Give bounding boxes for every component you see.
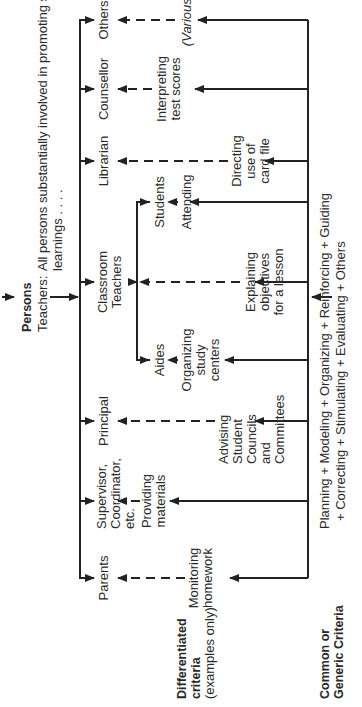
criterion-explaining-objectives: Explaining objectives for a lesson xyxy=(244,248,286,315)
criterion-organizing-study-centers: Organizing study centers xyxy=(180,329,222,392)
criterion-various: (Various) xyxy=(180,0,194,46)
person-classroom-teachers: Classroom Teachers xyxy=(96,251,124,313)
criterion-attending: Attending xyxy=(180,175,194,230)
persons-title: Persons xyxy=(20,283,34,332)
person-students: Students xyxy=(153,176,167,227)
criterion-monitoring-homework: Monitoring homework xyxy=(187,548,215,609)
common-criteria-line1: Planning + Modeling + Organizing + Reinf… xyxy=(318,193,332,529)
criterion-interpreting-test-scores: Interpreting test scores xyxy=(155,56,183,122)
teachers-description-line1: All persons substantially involved in pr… xyxy=(36,0,50,271)
common-criteria-line2: + Correcting + Stimulating + Evaluating … xyxy=(334,241,348,521)
diagram-canvas: Persons Teachers: All persons substantia… xyxy=(0,0,362,707)
differentiated-criteria-title: Differentiated criteria (examples only) xyxy=(175,607,217,699)
person-others: Others xyxy=(97,0,111,39)
person-counsellor: Counsellor xyxy=(97,58,111,120)
criterion-directing-card-file: Directing use of card file xyxy=(230,135,272,186)
teachers-prefix: Teachers: xyxy=(36,276,50,332)
person-supervisor: Supervisor, Coordinator, etc. xyxy=(95,458,137,529)
person-principal: Principal xyxy=(97,396,111,446)
common-criteria-title: Common or Generic Criteria xyxy=(318,605,346,699)
teachers-description-line2: learnings . . . . xyxy=(51,189,65,271)
person-librarian: Librarian xyxy=(97,136,111,187)
person-parents: Parents xyxy=(97,556,111,601)
criterion-providing-materials: Providing materials xyxy=(140,474,168,528)
criterion-advising-councils: Advising Student Councils and Committees xyxy=(217,395,287,464)
person-aides: Aides xyxy=(153,344,167,377)
